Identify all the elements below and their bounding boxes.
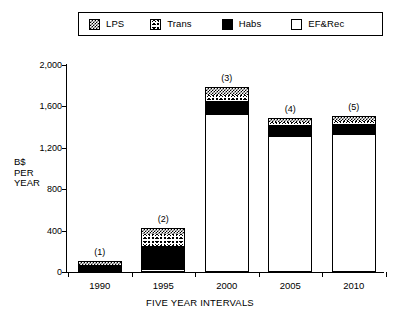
y-axis-tick-label: 1,200: [26, 144, 62, 153]
y-axis-tick: [62, 231, 67, 232]
x-axis-tick-label: 1995: [141, 281, 185, 291]
bar-segment-habs: [333, 124, 375, 135]
x-axis-tick: [195, 272, 196, 277]
bar-segment-lps: [206, 88, 248, 96]
x-axis-tick: [132, 272, 133, 277]
y-axis-tick-label: 1,600: [26, 102, 62, 111]
y-axis-title-line: B$: [14, 157, 58, 168]
y-axis-tick: [62, 272, 67, 273]
bar-annotation: (2): [141, 215, 185, 224]
bar-segment-habs: [269, 125, 311, 137]
bar-annotation: (4): [268, 105, 312, 114]
x-axis-tick-label: 1990: [78, 281, 122, 291]
bar-segment-habs: [79, 265, 121, 272]
x-axis-tick: [68, 272, 69, 277]
bar-1990[interactable]: [78, 261, 122, 272]
bar-annotation: (5): [332, 103, 376, 112]
y-axis-tick-label: 2,000: [26, 61, 62, 70]
bar-segment-habs: [206, 101, 248, 114]
bar-annotation: (3): [205, 74, 249, 83]
bar-segment-efrec: [333, 135, 375, 272]
bar-chart: 04008001,2001,6002,000 B$PERYEAR 1990199…: [0, 0, 400, 317]
y-axis-tick-label: 400: [26, 227, 62, 236]
y-axis-tick: [62, 189, 67, 190]
x-axis-title: FIVE YEAR INTERVALS: [0, 297, 400, 308]
y-axis-tick-label: 0: [26, 268, 62, 277]
y-axis-title-line: YEAR: [14, 178, 58, 189]
x-axis-tick-label: 2010: [332, 281, 376, 291]
y-axis-tick: [62, 106, 67, 107]
x-axis-line: [66, 272, 384, 273]
y-axis-tick: [62, 65, 67, 66]
bar-segment-trans: [142, 234, 184, 246]
x-axis-tick: [386, 272, 387, 277]
x-axis-tick-label: 2000: [205, 281, 249, 291]
y-axis-tick: [62, 148, 67, 149]
bar-2000[interactable]: [205, 87, 249, 272]
bar-annotation: (1): [78, 248, 122, 257]
bar-1995[interactable]: [141, 228, 185, 272]
bar-segment-efrec: [206, 115, 248, 272]
bar-segment-habs: [142, 246, 184, 270]
x-axis-tick-label: 2005: [268, 281, 312, 291]
y-axis-title: B$PERYEAR: [14, 157, 58, 189]
x-axis-tick: [259, 272, 260, 277]
y-axis-line: [66, 64, 67, 273]
x-axis-tick: [322, 272, 323, 277]
bar-segment-efrec: [269, 137, 311, 272]
bar-2005[interactable]: [268, 118, 312, 272]
bar-2010[interactable]: [332, 116, 376, 272]
bar-segment-efrec: [142, 270, 184, 272]
